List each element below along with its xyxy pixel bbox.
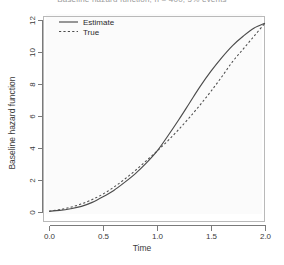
y-tick-labels: 024681012 <box>28 16 37 215</box>
x-tick-label: 2.0 <box>260 232 272 241</box>
plot-area: 024681012 0.00.51.01.52.0 EstimateTrue <box>0 0 284 265</box>
legend-label-true: True <box>83 28 100 37</box>
y-axis: 024681012 <box>28 16 43 215</box>
series-line-estimate <box>49 23 265 211</box>
x-axis: 0.00.51.01.52.0 <box>44 226 272 242</box>
y-tick-label: 4 <box>28 146 37 151</box>
y-tick-label: 8 <box>28 82 37 87</box>
chart-screenshot: Baseline hazard function, n = 400, 5% ev… <box>0 0 284 265</box>
y-tick-label: 10 <box>28 48 37 57</box>
y-tick-label: 6 <box>28 114 37 119</box>
legend: EstimateTrue <box>59 18 115 37</box>
x-tick-label: 0.0 <box>44 232 56 241</box>
y-tick-label: 2 <box>28 178 37 183</box>
x-tick-marks <box>50 226 266 231</box>
series-line-true <box>49 23 265 211</box>
data-series-group <box>49 23 265 211</box>
x-tick-label: 1.0 <box>152 232 164 241</box>
y-tick-marks <box>38 21 43 213</box>
x-tick-label: 0.5 <box>98 232 110 241</box>
x-tick-label: 1.5 <box>206 232 218 241</box>
legend-label-estimate: Estimate <box>83 18 115 27</box>
y-tick-label: 0 <box>28 210 37 215</box>
x-tick-labels: 0.00.51.01.52.0 <box>44 232 272 241</box>
y-tick-label: 12 <box>28 16 37 25</box>
